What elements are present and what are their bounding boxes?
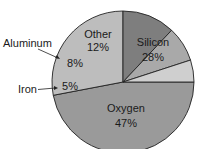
pie-chart: Silicon 28% Other 12% 8% 5% Oxygen 47% A… (0, 0, 200, 149)
value-aluminum: 8% (67, 57, 83, 69)
value-other: 12% (87, 41, 109, 53)
external-label-iron: Iron (18, 83, 37, 95)
label-oxygen: Oxygen (107, 102, 145, 114)
value-iron: 5% (62, 80, 78, 92)
value-silicon: 28% (142, 51, 164, 63)
label-other: Other (84, 28, 112, 40)
slice-oxygen (53, 82, 194, 149)
external-label-aluminum: Aluminum (3, 37, 52, 49)
leader-line-aluminum (38, 49, 58, 58)
label-silicon: Silicon (137, 36, 169, 48)
external-labels: Aluminum Iron (3, 37, 60, 95)
value-oxygen: 47% (115, 117, 137, 129)
